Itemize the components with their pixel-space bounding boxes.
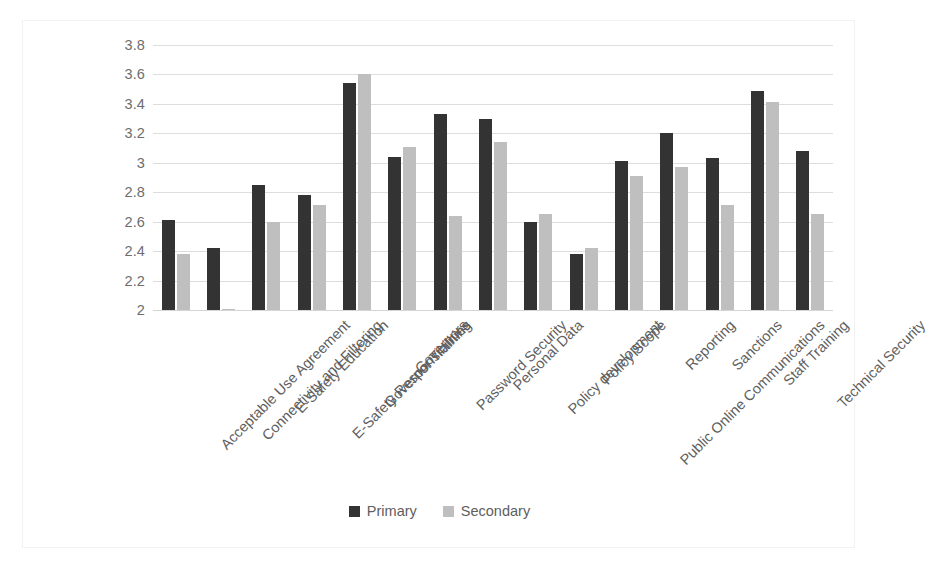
- bar-primary[interactable]: [298, 195, 311, 310]
- x-label-slot: Governors: [380, 313, 425, 513]
- chart-container: 3.83.63.43.232.82.62.42.22 Acceptable Us…: [22, 20, 855, 548]
- y-axis-tick-labels: 3.83.63.43.232.82.62.42.22: [105, 45, 145, 310]
- bar-primary[interactable]: [570, 254, 583, 310]
- y-axis-tick-label: 3.4: [125, 96, 145, 112]
- bar-group: [198, 45, 243, 310]
- legend-item-primary[interactable]: Primary: [349, 503, 417, 519]
- x-label-slot: Reporting: [652, 313, 697, 513]
- bar-secondary[interactable]: [358, 74, 371, 310]
- bar-secondary[interactable]: [177, 254, 190, 310]
- plot-area: [153, 45, 833, 310]
- y-axis-tick-label: 3.6: [125, 66, 145, 82]
- bar-group: [334, 45, 379, 310]
- y-axis-tick-label: 2.6: [125, 214, 145, 230]
- bar-primary[interactable]: [388, 157, 401, 310]
- bar-primary[interactable]: [207, 248, 220, 310]
- y-axis-tick-label: 2: [137, 302, 145, 318]
- bar-group: [742, 45, 787, 310]
- gridline: [153, 310, 833, 311]
- bar-primary[interactable]: [706, 158, 719, 310]
- x-label-slot: E-Safety Responsibilities: [289, 313, 334, 513]
- bar-group: [470, 45, 515, 310]
- bar-primary[interactable]: [660, 133, 673, 310]
- bar-primary[interactable]: [434, 114, 447, 310]
- bar-group: [153, 45, 198, 310]
- x-label-slot: Technical Security: [788, 313, 833, 513]
- bar-secondary[interactable]: [539, 214, 552, 310]
- x-label-slot: Personal Data: [470, 313, 515, 513]
- y-axis-tick-label: 2.4: [125, 243, 145, 259]
- chart-legend: PrimarySecondary: [23, 503, 856, 519]
- x-label-slot: Password Security: [425, 313, 470, 513]
- bar-secondary[interactable]: [630, 176, 643, 310]
- x-axis-category-labels: Acceptable Use AgreementConnectivity and…: [153, 313, 833, 513]
- bar-primary[interactable]: [524, 222, 537, 310]
- bar-primary[interactable]: [162, 220, 175, 310]
- x-label-slot: Acceptable Use Agreement: [153, 313, 198, 513]
- bar-secondary[interactable]: [449, 216, 462, 310]
- x-label-slot: Policy development: [516, 313, 561, 513]
- bar-secondary[interactable]: [313, 205, 326, 310]
- x-label-slot: Policy Scope: [561, 313, 606, 513]
- x-label-slot: Public Online Communications: [606, 313, 651, 513]
- bar-secondary[interactable]: [267, 222, 280, 310]
- y-axis-tick-label: 3.8: [125, 37, 145, 53]
- bar-secondary[interactable]: [585, 248, 598, 310]
- x-label-slot: Governor Training: [334, 313, 379, 513]
- x-label-slot: Sanctions: [697, 313, 742, 513]
- bar-group: [561, 45, 606, 310]
- bar-primary[interactable]: [615, 161, 628, 310]
- bar-primary[interactable]: [751, 91, 764, 310]
- bar-secondary[interactable]: [494, 142, 507, 310]
- bar-group: [289, 45, 334, 310]
- bar-secondary[interactable]: [721, 205, 734, 310]
- bar-group: [380, 45, 425, 310]
- y-axis-tick-label: 2.8: [125, 184, 145, 200]
- x-label-slot: E-Safety Education: [244, 313, 289, 513]
- bar-primary[interactable]: [479, 119, 492, 310]
- bar-secondary[interactable]: [222, 309, 235, 310]
- bar-secondary[interactable]: [811, 214, 824, 310]
- legend-label: Secondary: [461, 503, 530, 519]
- chart-plot-wrapper: 3.83.63.43.232.82.62.42.22 Acceptable Us…: [23, 21, 856, 549]
- bar-primary[interactable]: [252, 185, 265, 310]
- bar-primary[interactable]: [343, 83, 356, 310]
- bar-secondary[interactable]: [675, 167, 688, 310]
- bar-secondary[interactable]: [403, 147, 416, 310]
- y-axis-tick-label: 3.2: [125, 125, 145, 141]
- bar-group: [244, 45, 289, 310]
- bar-group: [516, 45, 561, 310]
- bar-group: [425, 45, 470, 310]
- legend-item-secondary[interactable]: Secondary: [443, 503, 530, 519]
- x-label-slot: Staff Training: [742, 313, 787, 513]
- bar-group: [652, 45, 697, 310]
- bar-group: [606, 45, 651, 310]
- legend-swatch-icon: [443, 506, 454, 517]
- bar-secondary[interactable]: [766, 102, 779, 310]
- bar-group: [697, 45, 742, 310]
- y-axis-tick-label: 2.2: [125, 273, 145, 289]
- y-axis-tick-label: 3: [137, 155, 145, 171]
- bar-primary[interactable]: [796, 151, 809, 310]
- legend-swatch-icon: [349, 506, 360, 517]
- legend-label: Primary: [367, 503, 417, 519]
- bar-groups: [153, 45, 833, 310]
- bar-group: [788, 45, 833, 310]
- x-label-slot: Connectivity and Filtering: [198, 313, 243, 513]
